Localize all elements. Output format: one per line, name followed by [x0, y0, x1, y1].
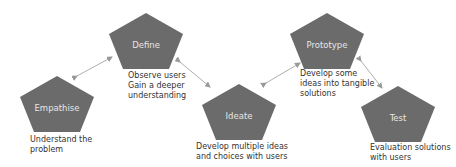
node-description-ideate: Develop multiple ideas and choices with … [196, 142, 288, 162]
description-line: Understand the [30, 135, 92, 145]
node-label: Define [109, 40, 183, 50]
description-line: Develop some [300, 69, 374, 79]
node-description-test: Evaluation solutions with users [370, 143, 451, 163]
node-prototype: Prototype [290, 13, 364, 69]
node-description-empathise: Understand the problem [30, 135, 92, 155]
node-description-define: Observe users Gain a deeper understandin… [128, 71, 186, 101]
description-line: Develop multiple ideas [196, 142, 288, 152]
node-define: Define [109, 13, 183, 69]
node-label: Test [361, 113, 435, 123]
design-thinking-diagram: Empathise Understand the problem Define … [0, 0, 456, 167]
description-line: problem [30, 145, 92, 155]
description-line: understanding [128, 91, 186, 101]
node-test: Test [361, 86, 435, 142]
description-line: Gain a deeper [128, 81, 186, 91]
description-line: Evaluation solutions [370, 143, 451, 153]
description-line: Observe users [128, 71, 186, 81]
node-label: Ideate [202, 111, 276, 121]
node-empathise: Empathise [20, 76, 94, 132]
description-line: and choices with users [196, 152, 288, 162]
node-label: Prototype [290, 40, 364, 50]
description-line: with users [370, 153, 451, 163]
node-ideate: Ideate [202, 84, 276, 140]
arrow-empathise-define [77, 57, 112, 76]
node-label: Empathise [20, 103, 94, 113]
